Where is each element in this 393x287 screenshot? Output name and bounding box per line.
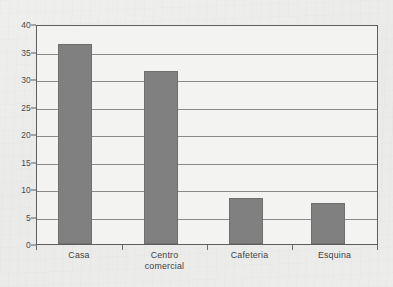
x-tick-4	[377, 245, 378, 250]
bar-cafeteria	[229, 198, 263, 244]
x-category-label-centro-comercial: Centro comercial	[122, 250, 207, 271]
y-tick-label-40: 40	[21, 20, 31, 30]
y-tick-label-15: 15	[21, 158, 31, 168]
bar-centro-comercial	[144, 71, 178, 244]
y-tick-label-30: 30	[21, 75, 31, 85]
x-category-label-esquina: Esquina	[292, 250, 377, 261]
bar-chart-figure: 0 5 10 15 20 25 30 35 40 Casa Centro com…	[0, 0, 393, 287]
bar-esquina	[311, 203, 345, 244]
y-tick-label-20: 20	[21, 130, 31, 140]
y-tick-label-25: 25	[21, 103, 31, 113]
plot-area	[36, 25, 378, 245]
x-category-label-cafeteria: Cafeteria	[207, 250, 292, 261]
bar-casa	[58, 44, 92, 244]
y-axis: 0 5 10 15 20 25 30 35 40	[0, 25, 31, 245]
y-tick-label-10: 10	[21, 185, 31, 195]
y-tick-label-35: 35	[21, 48, 31, 58]
x-category-label-casa: Casa	[36, 250, 122, 261]
